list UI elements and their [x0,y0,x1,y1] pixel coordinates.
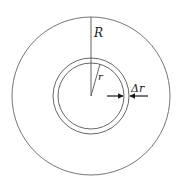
diagram-canvas: R r Δr [0,0,179,188]
inner-radius-label: r [98,71,104,82]
thickness-label: Δr [130,82,145,95]
outer-radius-label: R [93,26,103,40]
